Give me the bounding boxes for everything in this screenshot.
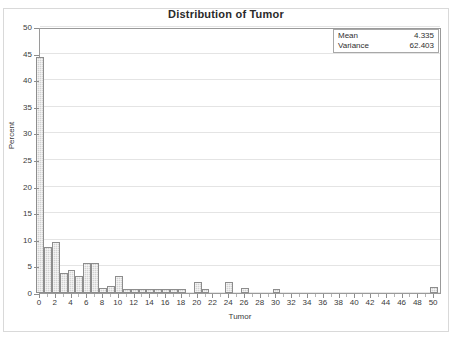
x-tick-minor [189,294,190,297]
x-tick-minor [63,294,64,297]
x-tick-minor [346,294,347,297]
y-tick-label-15: 15 [10,210,32,218]
bar [241,288,249,293]
y-tick-mark [34,55,39,56]
y-tick-mark [34,214,39,215]
y-tick-mark [34,188,39,189]
y-tick-label-20: 20 [10,184,32,192]
bar [75,276,83,293]
stat-row-mean: Mean 4.335 [334,31,438,41]
page-title: Distribution of Tumor [0,8,452,20]
bar [107,286,115,293]
bar [115,276,123,293]
x-tick-label-50: 50 [422,299,444,307]
stat-value-variance: 62.403 [410,41,434,51]
y-tick-mark [34,108,39,109]
x-tick-minor [173,294,174,297]
x-tick-minor [47,294,48,297]
x-tick-minor [141,294,142,297]
bar [170,289,178,293]
stat-value-mean: 4.335 [414,31,434,41]
gridline-y-50 [40,26,440,27]
x-tick-minor [268,294,269,297]
x-tick-minor [315,294,316,297]
x-tick-minor [425,294,426,297]
bar [225,282,233,293]
bar [162,289,170,293]
bar [99,288,107,293]
y-tick-label-45: 45 [10,51,32,59]
bar [178,289,186,293]
bar [430,287,438,293]
bar [202,289,210,293]
y-axis-label: Percent [7,101,16,171]
bar [91,263,99,293]
bar [68,270,76,293]
x-tick-minor [110,294,111,297]
y-tick-label-50: 50 [10,24,32,32]
bar [154,289,162,293]
y-tick-label-40: 40 [10,77,32,85]
bar [36,57,44,293]
statistics-box: Mean 4.335 Variance 62.403 [333,29,439,53]
bar [273,289,281,293]
y-tick-mark [34,267,39,268]
x-axis-label: Tumor [39,312,441,321]
x-tick-minor [252,294,253,297]
bar [52,242,60,293]
x-tick-minor [126,294,127,297]
x-tick-minor [78,294,79,297]
x-tick-minor [378,294,379,297]
y-tick-mark [34,241,39,242]
x-tick-minor [220,294,221,297]
bar [83,263,91,293]
x-tick-minor [94,294,95,297]
bar [44,247,52,293]
y-tick-mark [34,28,39,29]
y-tick-mark [34,134,39,135]
y-tick-label-0: 0 [10,290,32,298]
x-tick-minor [409,294,410,297]
stat-row-variance: Variance 62.403 [334,41,438,51]
x-tick-minor [394,294,395,297]
plot-area [39,28,441,294]
chart-page: Distribution of Tumor 051015202530354045… [0,0,452,341]
x-tick-minor [157,294,158,297]
bar [123,289,131,293]
bar [146,289,154,293]
stat-label-mean: Mean [338,31,358,41]
x-tick-minor [362,294,363,297]
x-tick-minor [205,294,206,297]
y-tick-label-5: 5 [10,263,32,271]
x-tick-minor [283,294,284,297]
bar [194,282,202,293]
y-tick-label-10: 10 [10,237,32,245]
stat-label-variance: Variance [338,41,369,51]
y-tick-mark [34,81,39,82]
bar [60,273,68,293]
bar [131,289,139,293]
bar [139,289,147,293]
x-tick-minor [299,294,300,297]
x-tick-minor [236,294,237,297]
x-tick-minor [331,294,332,297]
y-tick-mark [34,161,39,162]
bar-series [40,29,440,293]
